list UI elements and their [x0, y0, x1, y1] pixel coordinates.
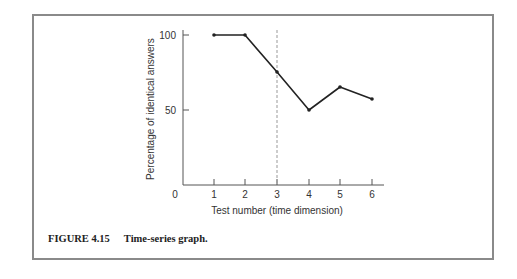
y-tick-label-100: 100 — [159, 30, 176, 41]
y-tick-label-50: 50 — [165, 105, 177, 116]
data-line — [214, 35, 372, 110]
data-points — [212, 33, 374, 112]
x-ticks — [214, 179, 372, 185]
figure-caption: FIGURE 4.15Time-series graph. — [48, 233, 208, 244]
figure-number: FIGURE 4.15 — [48, 233, 110, 244]
x-tick-label-2: 2 — [242, 189, 248, 200]
x-tick-label-0: 0 — [172, 189, 178, 200]
x-tick-label-1: 1 — [211, 189, 217, 200]
x-tick-label-4: 4 — [306, 189, 312, 200]
x-tick-label-5: 5 — [337, 189, 343, 200]
figure-title: Time-series graph. — [124, 233, 208, 244]
x-tick-label-6: 6 — [369, 189, 375, 200]
x-tick-label-3: 3 — [274, 189, 280, 200]
y-axis-title: Percentage of identical answers — [145, 38, 156, 180]
x-axis-title: Test number (time dimension) — [211, 205, 343, 216]
